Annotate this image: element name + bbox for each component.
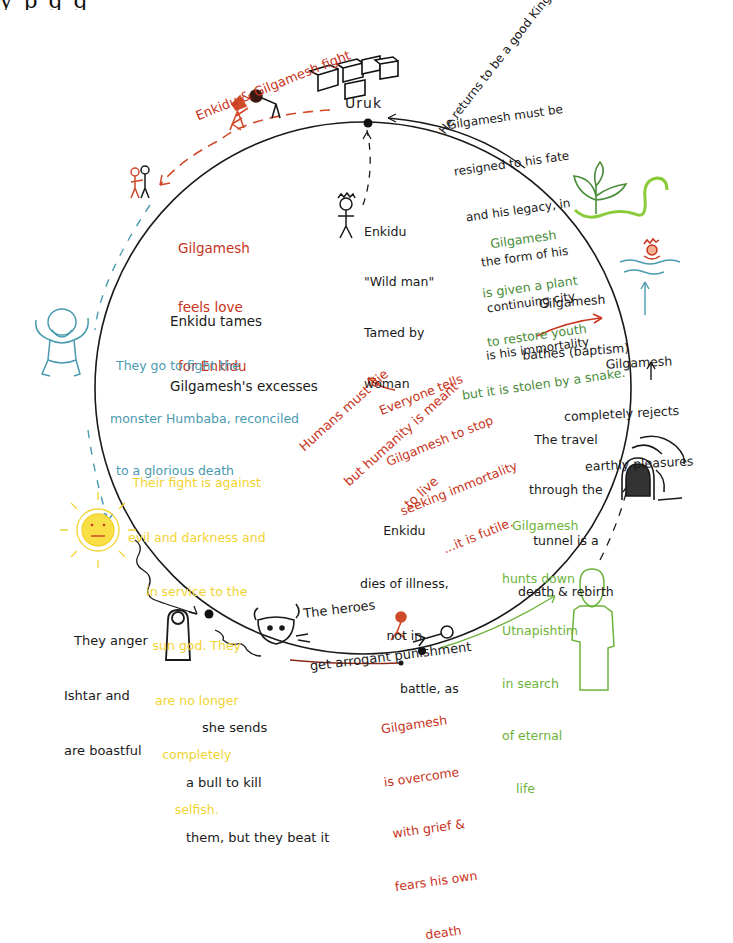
bull-line: she sends bbox=[186, 719, 329, 737]
arrogant-line: The heroes bbox=[302, 585, 466, 622]
wild-man-icon bbox=[338, 193, 355, 238]
wild-man-line: "Wild man" bbox=[364, 274, 434, 291]
feels-love-line: Gilgamesh bbox=[178, 239, 250, 259]
everyone-line: Gilgamesh to stop bbox=[379, 411, 501, 473]
humbaba-icon bbox=[36, 309, 88, 376]
plant-line: Gilgamesh bbox=[441, 220, 606, 259]
grief-line: with grief & bbox=[386, 814, 471, 843]
bathes-line: Gilgamesh bbox=[518, 290, 626, 314]
uruk-node-dot bbox=[364, 119, 373, 128]
arrogant-line: get arrogant punishment bbox=[309, 638, 473, 675]
everyone-line: Everyone tells bbox=[360, 364, 482, 426]
bull-line: them, but they beat it bbox=[186, 829, 329, 847]
utnapishtim-line: Utnapishtim bbox=[502, 622, 579, 640]
uruk-label: Uruk bbox=[345, 94, 382, 113]
grief-line: death bbox=[401, 918, 486, 943]
bull-label: she sends a bull to kill them, but they … bbox=[186, 683, 329, 865]
utnapishtim-label: Gilgamesh hunts down Utnapishtim in sear… bbox=[502, 482, 579, 815]
resigned-line: resigned to his fate bbox=[453, 149, 571, 181]
grief-line: Gilgamesh bbox=[372, 710, 457, 739]
utnapishtim-line: of eternal bbox=[502, 727, 579, 745]
sun-god-line: in service to the bbox=[128, 583, 266, 601]
arrogant-label: The heroes get arrogant punishment bbox=[298, 551, 474, 693]
grief-line: fears his own bbox=[394, 866, 479, 895]
resigned-line: Gilgamesh must be bbox=[446, 102, 564, 134]
bathing-figure-icon bbox=[620, 239, 680, 274]
sun-god-line: evil and darkness and bbox=[128, 529, 266, 547]
anger-line: are boastful bbox=[64, 742, 148, 760]
humbaba-line: They go to fight the bbox=[110, 357, 299, 375]
sun-god-line: Their fight is against bbox=[128, 474, 266, 492]
enkidu-dies-line: Enkidu bbox=[350, 522, 459, 540]
utnapishtim-line: life bbox=[502, 780, 579, 798]
anger-line: Ishtar and bbox=[64, 687, 148, 705]
tunnel-line: The travel bbox=[518, 432, 614, 449]
bull-line: a bull to kill bbox=[186, 774, 329, 792]
utnapishtim-line: in search bbox=[502, 675, 579, 693]
grief-line: is overcome bbox=[379, 762, 464, 791]
rejects-line: Gilgamesh bbox=[549, 352, 688, 376]
anger-ishtar-label: They anger Ishtar and are boastful bbox=[64, 596, 148, 778]
embracing-figures-icon bbox=[131, 166, 149, 198]
anger-line: They anger bbox=[64, 632, 148, 650]
sun-god-line: sun god. They bbox=[128, 637, 266, 655]
sun-icon bbox=[60, 492, 136, 568]
utnapishtim-line: Gilgamesh bbox=[502, 517, 579, 535]
wild-man-line: Enkidu bbox=[364, 224, 434, 241]
utnapishtim-line: hunts down bbox=[502, 570, 579, 588]
